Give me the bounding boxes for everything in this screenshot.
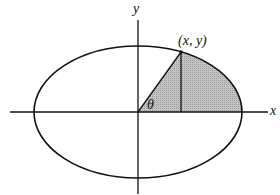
point-marker [179,50,183,54]
point-label: (x, y) [178,34,207,48]
angle-label: θ [147,98,154,112]
y-axis-label: y [133,2,139,16]
ellipse-diagram [0,0,280,195]
x-axis-label: x [270,104,276,118]
